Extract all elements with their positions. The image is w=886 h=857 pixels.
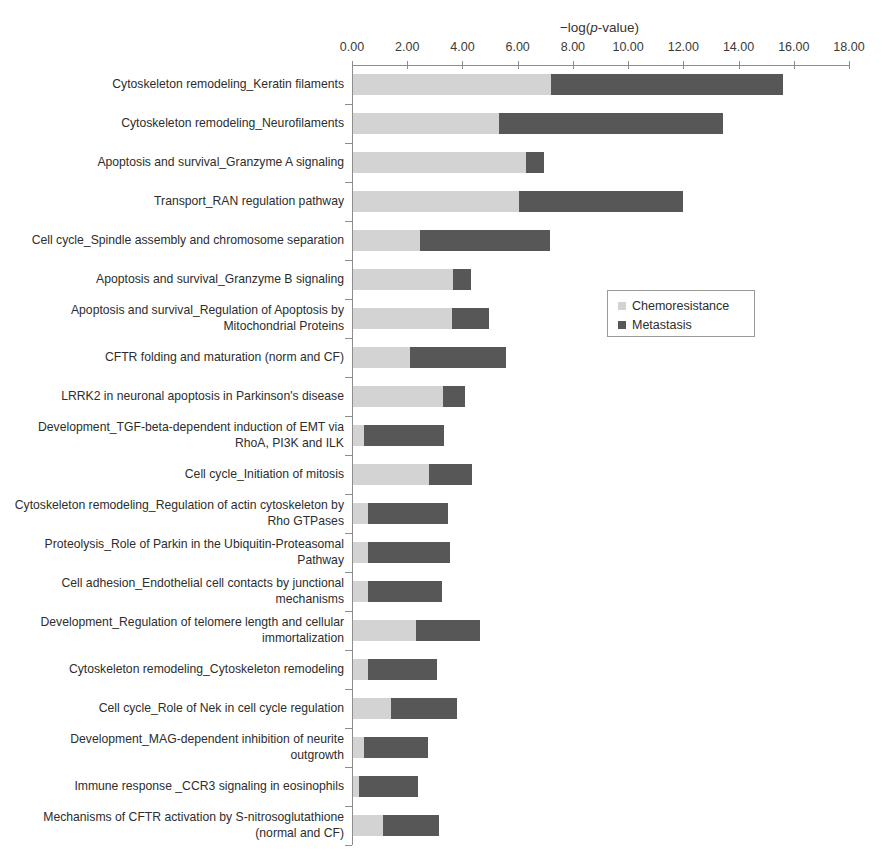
category-label: Cytoskeleton remodeling_Cytoskeleton rem… (14, 662, 344, 678)
stacked-bar[interactable] (353, 386, 465, 407)
x-axis-tick-label: 8.00 (561, 40, 585, 54)
y-axis-tick-mark (345, 845, 352, 846)
chart-row: Cell cycle_Initiation of mitosis (0, 455, 886, 494)
stacked-bar[interactable] (353, 815, 439, 836)
x-axis-title-prefix: −log( (560, 20, 590, 35)
bar-segment-chemoresistance[interactable] (353, 152, 526, 173)
bar-segment-metastasis[interactable] (391, 698, 457, 719)
category-label: Development_Regulation of telomere lengt… (14, 615, 344, 646)
bar-segment-metastasis[interactable] (443, 386, 464, 407)
legend-label-chemoresistance: Chemoresistance (632, 299, 729, 313)
category-label: Cell adhesion_Endothelial cell contacts … (14, 576, 344, 607)
category-label: Proteolysis_Role of Parkin in the Ubiqui… (14, 537, 344, 568)
bar-segment-chemoresistance[interactable] (353, 386, 443, 407)
bar-segment-chemoresistance[interactable] (353, 347, 410, 368)
chart-row: Cell adhesion_Endothelial cell contacts … (0, 572, 886, 611)
bar-segment-chemoresistance[interactable] (353, 230, 420, 251)
category-label: Apoptosis and survival_Granzyme B signal… (14, 272, 344, 288)
category-label: Cell cycle_Spindle assembly and chromoso… (14, 233, 344, 249)
legend-item-chemoresistance[interactable]: Chemoresistance (618, 296, 754, 315)
chart-row: CFTR folding and maturation (norm and CF… (0, 338, 886, 377)
bar-chart: −log(p-value) 0.002.004.006.008.0010.001… (0, 0, 886, 857)
stacked-bar[interactable] (353, 659, 437, 680)
category-label: Cell cycle_Initiation of mitosis (14, 467, 344, 483)
chart-row: Cytoskeleton remodeling_Regulation of ac… (0, 494, 886, 533)
x-axis-tick-label: 12.00 (668, 40, 699, 54)
legend-item-metastasis[interactable]: Metastasis (618, 315, 754, 334)
stacked-bar[interactable] (353, 698, 457, 719)
bar-segment-metastasis[interactable] (452, 308, 488, 329)
stacked-bar[interactable] (353, 776, 418, 797)
x-axis-tick-label: 6.00 (505, 40, 529, 54)
bar-segment-chemoresistance[interactable] (353, 113, 499, 134)
bar-segment-metastasis[interactable] (551, 74, 783, 95)
stacked-bar[interactable] (353, 191, 684, 212)
bar-segment-chemoresistance[interactable] (353, 74, 551, 95)
bar-segment-chemoresistance[interactable] (353, 542, 368, 563)
stacked-bar[interactable] (353, 347, 506, 368)
bar-segment-chemoresistance[interactable] (353, 737, 364, 758)
bar-segment-metastasis[interactable] (359, 776, 419, 797)
category-label: Cytoskeleton remodeling_Neurofilaments (14, 116, 344, 132)
stacked-bar[interactable] (353, 737, 428, 758)
chart-row: Development_MAG-dependent inhibition of … (0, 728, 886, 767)
x-axis-title: −log(p-value) (351, 20, 848, 35)
legend-swatch-chemoresistance-icon (618, 302, 626, 310)
bar-segment-metastasis[interactable] (368, 581, 443, 602)
chart-row: Cytoskeleton remodeling_Cytoskeleton rem… (0, 650, 886, 689)
bar-segment-chemoresistance[interactable] (353, 503, 368, 524)
bar-segment-metastasis[interactable] (499, 113, 723, 134)
x-axis-tick-label: 16.00 (778, 40, 809, 54)
bar-segment-chemoresistance[interactable] (353, 191, 519, 212)
stacked-bar[interactable] (353, 581, 442, 602)
bar-segment-metastasis[interactable] (526, 152, 544, 173)
bar-segment-chemoresistance[interactable] (353, 659, 368, 680)
stacked-bar[interactable] (353, 620, 480, 641)
legend-label-metastasis: Metastasis (632, 318, 692, 332)
bar-segment-metastasis[interactable] (416, 620, 480, 641)
stacked-bar[interactable] (353, 425, 444, 446)
bar-segment-metastasis[interactable] (453, 269, 470, 290)
stacked-bar[interactable] (353, 152, 544, 173)
bar-segment-metastasis[interactable] (420, 230, 550, 251)
category-label: Cell cycle_Role of Nek in cell cycle reg… (14, 701, 344, 717)
bar-segment-metastasis[interactable] (410, 347, 506, 368)
bar-segment-chemoresistance[interactable] (353, 308, 452, 329)
bar-segment-chemoresistance[interactable] (353, 581, 368, 602)
category-label: Immune response _CCR3 signaling in eosin… (14, 779, 344, 795)
stacked-bar[interactable] (353, 542, 450, 563)
chart-row: Immune response _CCR3 signaling in eosin… (0, 767, 886, 806)
stacked-bar[interactable] (353, 74, 783, 95)
category-label: Apoptosis and survival_Regulation of Apo… (14, 303, 344, 334)
bar-segment-metastasis[interactable] (429, 464, 472, 485)
bar-segment-metastasis[interactable] (368, 503, 448, 524)
bar-segment-chemoresistance[interactable] (353, 464, 429, 485)
stacked-bar[interactable] (353, 503, 448, 524)
chart-row: Apoptosis and survival_Granzyme A signal… (0, 143, 886, 182)
bar-segment-metastasis[interactable] (519, 191, 683, 212)
bar-segment-metastasis[interactable] (383, 815, 439, 836)
stacked-bar[interactable] (353, 464, 472, 485)
chart-row: Development_TGF-beta-dependent induction… (0, 416, 886, 455)
chart-row: Cell cycle_Role of Nek in cell cycle reg… (0, 689, 886, 728)
bar-segment-chemoresistance[interactable] (353, 698, 391, 719)
x-axis-tick-label: 14.00 (723, 40, 754, 54)
chart-row: Cell cycle_Spindle assembly and chromoso… (0, 221, 886, 260)
bar-segment-metastasis[interactable] (364, 737, 428, 758)
category-label: Apoptosis and survival_Granzyme A signal… (14, 155, 344, 171)
stacked-bar[interactable] (353, 230, 550, 251)
plot-area: Cytoskeleton remodeling_Keratin filament… (0, 65, 886, 845)
bar-segment-chemoresistance[interactable] (353, 269, 453, 290)
bar-segment-metastasis[interactable] (368, 542, 450, 563)
category-label: LRRK2 in neuronal apoptosis in Parkinson… (14, 389, 344, 405)
category-label: Development_TGF-beta-dependent induction… (14, 420, 344, 451)
chart-row: Development_Regulation of telomere lengt… (0, 611, 886, 650)
bar-segment-chemoresistance[interactable] (353, 425, 364, 446)
bar-segment-metastasis[interactable] (364, 425, 444, 446)
bar-segment-chemoresistance[interactable] (353, 815, 383, 836)
stacked-bar[interactable] (353, 269, 471, 290)
bar-segment-metastasis[interactable] (368, 659, 437, 680)
stacked-bar[interactable] (353, 308, 489, 329)
bar-segment-chemoresistance[interactable] (353, 620, 416, 641)
stacked-bar[interactable] (353, 113, 723, 134)
